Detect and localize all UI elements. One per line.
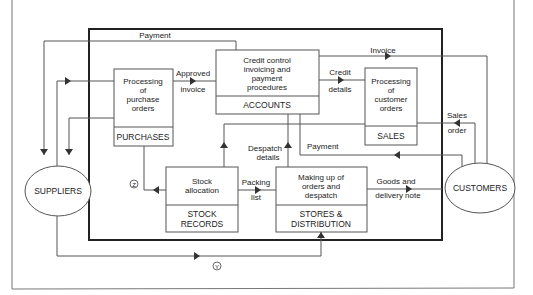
arrow-left-icon (153, 186, 159, 194)
accounts-department: ACCOUNTS (243, 100, 291, 110)
data-flow-diagram: SUPPLIERS CUSTOMERS Processing of purcha… (0, 0, 533, 295)
stock-department-1: STOCK (187, 209, 216, 219)
marker-y: Y (213, 262, 221, 270)
stores-line-2: orders and (302, 182, 340, 191)
label-credit: Credit (329, 68, 351, 77)
arrow-up-icon (220, 142, 228, 148)
arrow-up-icon (284, 142, 292, 148)
label-approved: Approved (176, 69, 210, 78)
flow-sales-to-stock (224, 124, 365, 167)
accounts-line-1: Credit control (243, 56, 291, 65)
label-invoice-approved: invoice (181, 85, 206, 94)
arrow-right-icon (338, 76, 344, 84)
label-despatch-details: details (256, 153, 279, 162)
suppliers-label: SUPPLIERS (34, 186, 82, 196)
stores-line-3: despatch (305, 191, 337, 200)
marker-y-label: Y (215, 264, 219, 270)
purchases-line-2: of (140, 86, 147, 95)
accounts-line-4: procedures (247, 83, 287, 92)
entity-suppliers[interactable]: SUPPLIERS (25, 166, 91, 216)
purchases-line-4: orders (132, 104, 155, 113)
label-invoice: Invoice (370, 46, 396, 55)
label-packing: Packing (242, 178, 270, 187)
sales-line-1: Processing (371, 77, 411, 86)
label-order: order (448, 126, 467, 135)
sales-line-3: customer (375, 95, 408, 104)
arrow-down-icon (65, 149, 73, 155)
label-delivery-note: delivery note (375, 191, 421, 200)
flow-purchases-to-suppliers (69, 118, 114, 155)
purchases-line-1: Processing (123, 77, 163, 86)
label-sales: Sales (447, 111, 467, 120)
stores-line-1: Making up of (298, 173, 345, 182)
marker-z: Z (130, 180, 138, 188)
stores-department-1: STORES & (300, 209, 343, 219)
arrow-down-icon (40, 149, 48, 155)
stock-line-2: allocation (185, 186, 219, 195)
arrow-left-icon (394, 151, 400, 159)
label-payment-top: Payment (139, 31, 171, 40)
customers-label: CUSTOMERS (453, 183, 507, 193)
stock-line-1: Stock (192, 177, 213, 186)
accounts-line-3: payment (252, 74, 283, 83)
arrow-right-icon (190, 77, 196, 85)
arrow-right-icon (194, 252, 200, 260)
stores-department-2: DISTRIBUTION (291, 219, 351, 229)
purchases-department: PURCHASES (117, 132, 170, 142)
label-payment-mid: Payment (307, 142, 339, 151)
purchases-line-3: purchase (127, 95, 160, 104)
sales-line-4: orders (380, 104, 403, 113)
label-list: list (251, 193, 262, 202)
label-goods: Goods and (376, 177, 415, 186)
marker-z-label: Z (132, 182, 136, 188)
arrow-up-icon (317, 232, 325, 238)
flow-z (144, 146, 166, 190)
label-despatch: Despatch (248, 144, 282, 153)
sales-department: SALES (377, 131, 405, 141)
label-details: details (328, 85, 351, 94)
flow-suppliers-to-purchases (57, 81, 114, 172)
entity-customers[interactable]: CUSTOMERS (445, 163, 515, 213)
stock-department-2: RECORDS (181, 219, 224, 229)
arrow-right-icon (65, 77, 71, 85)
sales-line-2: of (388, 86, 395, 95)
accounts-line-2: invoicing and (244, 65, 291, 74)
